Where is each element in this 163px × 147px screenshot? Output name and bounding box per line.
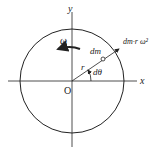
omega-arrow [58,47,80,49]
diagram: y x O ω dm r dθ dm·r ω² [0,0,163,147]
mass-element-label: dm [90,46,102,56]
mass-element-marker [101,57,105,61]
angle-label: dθ [93,67,103,77]
omega-label: ω [60,35,67,46]
radius-label: r [81,62,85,72]
y-axis-label: y [67,3,73,14]
origin-label: O [64,85,71,96]
x-axis-label: x [139,75,145,86]
angle-arc [88,70,91,81]
force-label: dm·r ω² [123,37,149,46]
